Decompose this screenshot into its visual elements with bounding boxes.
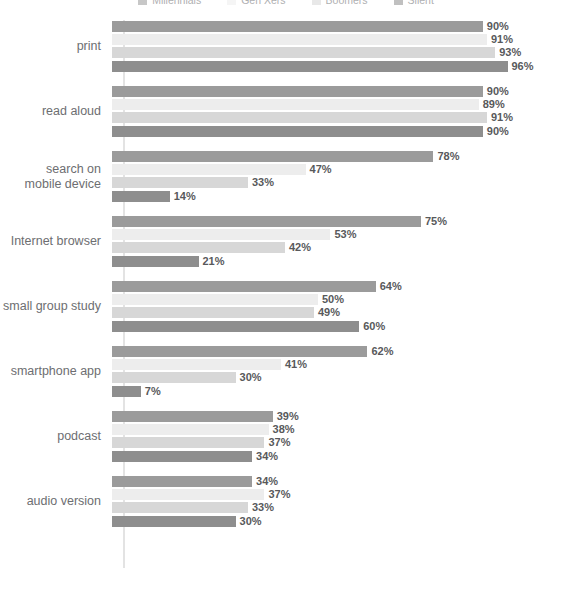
- bar-row: 34%: [112, 476, 572, 487]
- category-label: audio version: [0, 494, 112, 509]
- bar-value-label: 90%: [487, 126, 509, 137]
- bar-group: small group study64%50%49%60%: [0, 274, 572, 339]
- bar-row: 89%: [112, 99, 572, 110]
- legend-item[interactable]: Silent: [394, 0, 434, 6]
- legend-item[interactable]: Gen Xers: [227, 0, 285, 6]
- bar-row: 34%: [112, 451, 572, 462]
- bar[interactable]: [112, 451, 252, 462]
- bar-value-label: 41%: [285, 359, 307, 370]
- bar[interactable]: [112, 61, 508, 72]
- bar-value-label: 7%: [145, 386, 161, 397]
- chart-legend: MillennialsGen XersBoomersSilent: [0, 0, 572, 7]
- bar-value-label: 78%: [437, 151, 459, 162]
- legend-item[interactable]: Boomers: [312, 0, 368, 6]
- bar-row: 37%: [112, 489, 572, 500]
- bar-row: 50%: [112, 294, 572, 305]
- legend-swatch-icon: [138, 0, 147, 5]
- bar-row: 91%: [112, 34, 572, 45]
- bar-row: 33%: [112, 177, 572, 188]
- bar[interactable]: [112, 256, 199, 267]
- bar-value-label: 62%: [371, 346, 393, 357]
- category-label: small group study: [0, 299, 112, 314]
- legend-item[interactable]: Millennials: [138, 0, 201, 6]
- bar-stack: 78%47%33%14%: [112, 148, 572, 206]
- legend-swatch-icon: [312, 0, 321, 5]
- bar-row: 21%: [112, 256, 572, 267]
- bar-row: 14%: [112, 191, 572, 202]
- bar[interactable]: [112, 242, 285, 253]
- bar[interactable]: [112, 424, 269, 435]
- bar[interactable]: [112, 359, 281, 370]
- bar-row: 96%: [112, 61, 572, 72]
- bar-group: read aloud90%89%91%90%: [0, 79, 572, 144]
- bar-value-label: 38%: [273, 424, 295, 435]
- bar-stack: 90%91%93%96%: [112, 18, 572, 76]
- bar[interactable]: [112, 321, 359, 332]
- bar-groups: print90%91%93%96%read aloud90%89%91%90%s…: [0, 14, 572, 534]
- bar-stack: 90%89%91%90%: [112, 83, 572, 141]
- bar[interactable]: [112, 281, 376, 292]
- bar-value-label: 37%: [268, 437, 290, 448]
- bar[interactable]: [112, 307, 314, 318]
- bar-row: 93%: [112, 47, 572, 58]
- category-label: podcast: [0, 429, 112, 444]
- bar-row: 39%: [112, 411, 572, 422]
- bar[interactable]: [112, 489, 264, 500]
- bar-stack: 64%50%49%60%: [112, 278, 572, 336]
- bar[interactable]: [112, 437, 264, 448]
- bar-row: 30%: [112, 516, 572, 527]
- bar[interactable]: [112, 372, 236, 383]
- bar-row: 91%: [112, 112, 572, 123]
- bar-group: search on mobile device78%47%33%14%: [0, 144, 572, 209]
- bar-value-label: 53%: [334, 229, 356, 240]
- bar-value-label: 33%: [252, 177, 274, 188]
- bar[interactable]: [112, 99, 479, 110]
- bar-group: podcast39%38%37%34%: [0, 404, 572, 469]
- bar[interactable]: [112, 112, 487, 123]
- category-label: smartphone app: [0, 364, 112, 379]
- bar[interactable]: [112, 86, 483, 97]
- plot-area: print90%91%93%96%read aloud90%89%91%90%s…: [0, 14, 572, 581]
- bar-value-label: 75%: [425, 216, 447, 227]
- bar[interactable]: [112, 386, 141, 397]
- bar-value-label: 60%: [363, 321, 385, 332]
- bar[interactable]: [112, 191, 170, 202]
- bar-row: 90%: [112, 21, 572, 32]
- bar[interactable]: [112, 47, 495, 58]
- bar[interactable]: [112, 151, 433, 162]
- bar-row: 33%: [112, 502, 572, 513]
- bar-group: Internet browser75%53%42%21%: [0, 209, 572, 274]
- bar[interactable]: [112, 411, 273, 422]
- bar-value-label: 50%: [322, 294, 344, 305]
- legend-label: Silent: [408, 0, 434, 6]
- bar[interactable]: [112, 164, 306, 175]
- bar-row: 75%: [112, 216, 572, 227]
- bar-value-label: 49%: [318, 307, 340, 318]
- bar-stack: 34%37%33%30%: [112, 473, 572, 531]
- bar[interactable]: [112, 177, 248, 188]
- bar-row: 42%: [112, 242, 572, 253]
- bar[interactable]: [112, 476, 252, 487]
- legend-label: Gen Xers: [241, 0, 285, 6]
- bar[interactable]: [112, 516, 236, 527]
- bar[interactable]: [112, 346, 367, 357]
- bar-row: 78%: [112, 151, 572, 162]
- bar-stack: 75%53%42%21%: [112, 213, 572, 271]
- bar[interactable]: [112, 229, 330, 240]
- bar-value-label: 30%: [240, 516, 262, 527]
- bar[interactable]: [112, 21, 483, 32]
- bar-row: 90%: [112, 86, 572, 97]
- bar[interactable]: [112, 216, 421, 227]
- category-label: search on mobile device: [0, 162, 112, 192]
- bar[interactable]: [112, 294, 318, 305]
- bar-chart: MillennialsGen XersBoomersSilent print90…: [0, 0, 572, 593]
- bar-row: 90%: [112, 126, 572, 137]
- bar[interactable]: [112, 34, 487, 45]
- category-label: print: [0, 39, 112, 54]
- legend-swatch-icon: [227, 0, 236, 5]
- bar-row: 37%: [112, 437, 572, 448]
- bar[interactable]: [112, 126, 483, 137]
- bar[interactable]: [112, 502, 248, 513]
- bar-value-label: 39%: [277, 411, 299, 422]
- bar-group: print90%91%93%96%: [0, 14, 572, 79]
